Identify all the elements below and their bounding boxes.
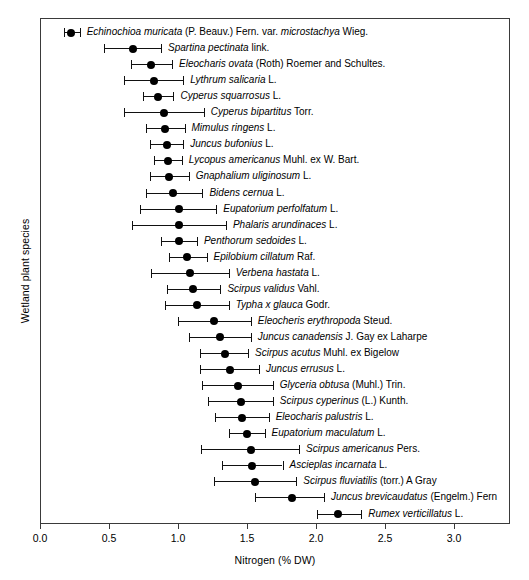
data-row[interactable]: Bidens cernua L. [41, 186, 511, 202]
data-point-mean[interactable] [237, 398, 245, 406]
data-point-mean[interactable] [165, 173, 173, 181]
chart-page: Echinochioa muricata (P. Beauv.) Fern. v… [0, 0, 529, 580]
x-axis-tick [109, 524, 110, 529]
species-label: Phalaris arundinaces L. [233, 217, 338, 233]
data-row[interactable]: Verbena hastata L. [41, 266, 511, 282]
data-point-mean[interactable] [334, 510, 342, 518]
data-point-mean[interactable] [129, 45, 137, 53]
data-row[interactable]: Glyceria obtusa (Muhl.) Trin. [41, 378, 511, 394]
error-bar-cap-high [202, 189, 203, 198]
error-bar-cap-high [259, 365, 260, 374]
data-point-mean[interactable] [154, 93, 162, 101]
data-point-mean[interactable] [234, 382, 242, 390]
data-row[interactable]: Scirpus americanus Pers. [41, 442, 511, 458]
x-axis-tick-label: 1.5 [227, 532, 267, 544]
data-row[interactable]: Scirpus cyperinus (L.) Kunth. [41, 394, 511, 410]
data-row[interactable]: Eupatorium maculatum L. [41, 426, 511, 442]
data-point-mean[interactable] [193, 301, 201, 309]
error-bar-cap-low [154, 156, 155, 165]
error-bar-cap-low [124, 108, 125, 117]
data-point-mean[interactable] [175, 221, 183, 229]
species-label: Typha x glauca Godr. [236, 297, 330, 313]
data-row[interactable]: Eleocharis palustris L. [41, 410, 511, 426]
data-row[interactable]: Rumex verticillatus L. [41, 507, 511, 523]
data-point-mean[interactable] [216, 333, 224, 341]
data-point-mean[interactable] [160, 109, 168, 117]
error-bar-cap-high [229, 269, 230, 278]
species-label: Cyperus squarrosus L. [180, 88, 281, 104]
error-bar-cap-low [132, 221, 133, 230]
data-point-mean[interactable] [243, 430, 251, 438]
data-row[interactable]: Scirpus acutus Muhl. ex Bigelow [41, 346, 511, 362]
error-bar-cap-low [189, 333, 190, 342]
error-bar-cap-low [131, 60, 132, 69]
data-point-mean[interactable] [183, 253, 191, 261]
species-label: Juncus canadensis J. Gay ex Laharpe [258, 329, 428, 345]
species-label: Penthorum sedoides L. [204, 233, 307, 249]
data-row[interactable]: Juncus canadensis J. Gay ex Laharpe [41, 330, 511, 346]
error-bar-cap-low [146, 189, 147, 198]
data-row[interactable]: Ascieplas incarnata L. [41, 458, 511, 474]
data-row[interactable]: Juncus brevicaudatus (Engelm.) Fern [41, 490, 511, 506]
data-point-mean[interactable] [226, 366, 234, 374]
data-point-mean[interactable] [175, 205, 183, 213]
error-bar-cap-low [161, 237, 162, 246]
error-bar-cap-high [265, 429, 266, 438]
data-point-mean[interactable] [288, 494, 296, 502]
data-point-mean[interactable] [221, 350, 229, 358]
data-row[interactable]: Scirpus fluviatilis (torr.) A Gray [41, 474, 511, 490]
data-row[interactable]: Echinochioa muricata (P. Beauv.) Fern. v… [41, 25, 511, 41]
data-point-mean[interactable] [163, 141, 171, 149]
species-label: Juncus bufonius L. [190, 136, 273, 152]
data-point-mean[interactable] [169, 189, 177, 197]
data-row[interactable]: Lythrum salicaria L. [41, 73, 511, 89]
data-point-mean[interactable] [189, 285, 197, 293]
error-bar-cap-low [169, 253, 170, 262]
data-row[interactable]: Gnaphalium uliginosum L. [41, 169, 511, 185]
data-row[interactable]: Typha x glauca Godr. [41, 298, 511, 314]
data-point-mean[interactable] [251, 478, 259, 486]
data-point-mean[interactable] [164, 157, 172, 165]
species-label: Echinochioa muricata (P. Beauv.) Fern. v… [87, 24, 368, 40]
data-row[interactable]: Penthorum sedoides L. [41, 234, 511, 250]
data-row[interactable]: Spartina pectinata link. [41, 41, 511, 57]
x-axis-tick [385, 524, 386, 529]
data-point-mean[interactable] [175, 237, 183, 245]
species-label: Mimulus ringens L. [192, 120, 276, 136]
data-row[interactable]: Lycopus americanus Muhl. ex W. Bart. [41, 153, 511, 169]
data-point-mean[interactable] [186, 269, 194, 277]
data-row[interactable]: Eupatorium perfolfatum L. [41, 202, 511, 218]
error-bar-cap-low [167, 285, 168, 294]
data-row[interactable]: Eleocheris erythropoda Steud. [41, 314, 511, 330]
data-point-mean[interactable] [67, 29, 75, 37]
data-row[interactable]: Cyperus bipartitus Torr. [41, 105, 511, 121]
error-bar-cap-high [226, 221, 227, 230]
data-row[interactable]: Cyperus squarrosus L. [41, 89, 511, 105]
error-bar-cap-high [216, 205, 217, 214]
data-row[interactable]: Juncus bufonius L. [41, 137, 511, 153]
data-row[interactable]: Epilobium cillatum Raf. [41, 250, 511, 266]
data-point-mean[interactable] [147, 61, 155, 69]
data-row[interactable]: Phalaris arundinaces L. [41, 218, 511, 234]
error-bar-cap-low [150, 172, 151, 181]
x-axis-label: Nitrogen (% DW) [40, 554, 510, 566]
data-point-mean[interactable] [238, 414, 246, 422]
error-bar-cap-high [273, 381, 274, 390]
error-bar-cap-high [220, 285, 221, 294]
data-point-mean[interactable] [248, 462, 256, 470]
error-bar-cap-high [185, 124, 186, 133]
data-row[interactable]: Eleocharis ovata (Roth) Roemer and Schul… [41, 57, 511, 73]
data-row[interactable]: Scirpus validus Vahl. [41, 282, 511, 298]
error-bar-cap-low [178, 317, 179, 326]
error-bar-cap-high [183, 140, 184, 149]
data-point-mean[interactable] [161, 125, 169, 133]
error-bar-cap-high [324, 493, 325, 502]
data-point-mean[interactable] [247, 446, 255, 454]
data-point-mean[interactable] [150, 77, 158, 85]
error-bar-cap-high [173, 92, 174, 101]
data-row[interactable]: Mimulus ringens L. [41, 121, 511, 137]
data-row[interactable]: Juncus errusus L. [41, 362, 511, 378]
species-label: Epilobium cillatum Raf. [214, 249, 316, 265]
error-bar-cap-high [251, 317, 252, 326]
data-point-mean[interactable] [210, 317, 218, 325]
